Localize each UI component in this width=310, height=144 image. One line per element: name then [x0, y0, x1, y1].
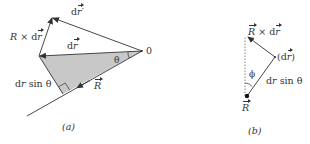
dr-sin-theta-label-b: dr sin θ [266, 76, 302, 86]
dr-prime-label: dr′ [71, 7, 84, 17]
R-cross-dr-label: R × dr [10, 32, 42, 42]
diagram-canvas [0, 0, 310, 144]
R-point [245, 94, 249, 98]
vector-R-cross-dr-b [248, 37, 275, 57]
r-symbol: r [21, 78, 26, 89]
caption-b: (b) [248, 126, 262, 136]
phi-arc [245, 83, 252, 87]
R-vector-symbol: R [242, 103, 249, 113]
r-symbol: r [272, 75, 277, 86]
R-vector-symbol: R [248, 27, 255, 37]
dr-point-label: (dr) [277, 52, 295, 62]
theta-label: θ [114, 56, 119, 65]
dr-vector-symbol: r [287, 52, 292, 62]
dr-prime-vector-symbol: r [77, 7, 82, 17]
figure: 0 θ dr′ dr R × dr dr sin θ R (a) R × dr … [0, 0, 310, 144]
dr-label: dr [67, 41, 78, 51]
panel-b [245, 36, 276, 98]
origin-point [141, 50, 143, 52]
panel-a [27, 18, 143, 116]
dr-vector-symbol: r [73, 41, 78, 51]
dr-point [274, 56, 276, 58]
origin-label: 0 [146, 46, 152, 56]
phi-label: ϕ [249, 70, 255, 79]
dr-sin-theta-label: dr sin θ [15, 79, 51, 89]
caption-a: (a) [62, 122, 75, 132]
shaded-triangle [39, 51, 142, 94]
R-cross-dr-label-b: R × dr [248, 27, 280, 37]
dr-vector-symbol: r [275, 27, 280, 37]
R-vector-symbol: R [94, 81, 101, 91]
R-label-b: R [242, 103, 249, 113]
R-label: R [94, 81, 101, 91]
dr-vector-symbol: r [37, 32, 42, 42]
R-symbol: R [10, 31, 17, 42]
